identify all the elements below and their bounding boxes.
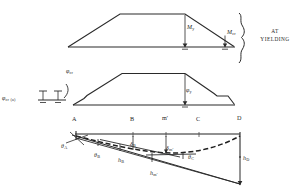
- curvature-inset-detail: [28, 82, 78, 108]
- label-mcr: Mcr: [227, 29, 236, 35]
- curly-brace-icon: [239, 13, 244, 63]
- station-label-b: B: [130, 116, 134, 122]
- at-yielding-note: AT YIELDING: [255, 28, 295, 44]
- engineering-figure-sheet: My Mcr AT YIELDING φy: [0, 0, 296, 196]
- label-phi-cr-a: φcr (a): [2, 95, 16, 101]
- bending-moment-diagram: [0, 0, 250, 58]
- grouping-brace: [236, 12, 252, 64]
- label-h-m: hm': [150, 170, 158, 176]
- label-delta-b: δB: [130, 141, 136, 147]
- label-h-d: hD: [243, 155, 249, 161]
- curvature-right-slope: [185, 74, 235, 105]
- station-label-m: m': [162, 115, 168, 121]
- lower-chord-line: [76, 138, 240, 184]
- label-delta-m: δm': [166, 145, 173, 151]
- note-line-1: AT: [255, 28, 295, 36]
- label-theta-b: θB: [94, 152, 100, 158]
- station-label-a: A: [72, 116, 76, 122]
- curvature-left-slope: [73, 74, 185, 106]
- moment-trapezoid-outline: [68, 14, 234, 47]
- note-line-2: YIELDING: [255, 36, 295, 44]
- label-theta-a: θA: [61, 143, 67, 149]
- label-phi-cr: φcr: [66, 68, 73, 74]
- station-label-d: D: [237, 115, 241, 121]
- label-h-b: hB: [118, 157, 124, 163]
- label-phi-y: φy: [186, 87, 192, 93]
- inset-leader-curve: [64, 84, 68, 98]
- station-label-c: C: [196, 116, 200, 122]
- label-my: My: [187, 24, 195, 30]
- deflected-shape-diagram: [0, 112, 296, 196]
- label-theta-c: θC: [188, 154, 194, 160]
